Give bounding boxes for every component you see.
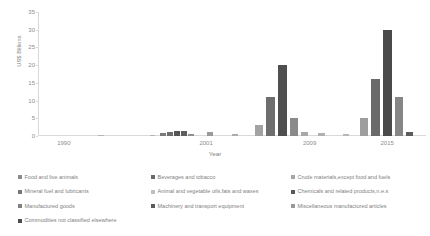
y-tick-mark-6 [36, 30, 38, 31]
bar[interactable] [406, 132, 413, 136]
y-axis-line [38, 12, 39, 136]
y-tick-mark-0 [36, 136, 38, 137]
legend-label: Beverages and tobacco [158, 175, 216, 181]
y-tick-label-2: 10 [28, 98, 35, 104]
bar[interactable] [232, 134, 238, 136]
legend-row: Manufactured goodsMachinery and transpor… [18, 199, 423, 214]
legend-swatch-icon [151, 204, 155, 208]
bar[interactable] [266, 97, 275, 136]
bar[interactable] [207, 132, 213, 136]
y-tick-mark-3 [36, 83, 38, 84]
bar[interactable] [278, 65, 287, 136]
legend-swatch-icon [291, 204, 295, 208]
legend-row: Food and live animalsBeverages and tobac… [18, 170, 423, 185]
legend-label: Commodities not classified elsewhere [25, 218, 117, 224]
legend-item[interactable]: Commodities not classified elsewhere [18, 218, 151, 224]
y-tick-label-4: 20 [28, 62, 35, 68]
bar[interactable] [318, 133, 325, 136]
legend-swatch-icon [18, 219, 22, 223]
legend-swatch-icon [151, 190, 155, 194]
y-tick-label-6: 30 [28, 27, 35, 33]
bar[interactable] [98, 135, 104, 136]
x-tick-label-0: 1990 [57, 140, 70, 146]
legend-swatch-icon [18, 190, 22, 194]
bar[interactable] [395, 97, 403, 136]
legend-item[interactable]: Food and live animals [18, 175, 151, 181]
bar[interactable] [174, 131, 180, 136]
y-tick-label-0: 0 [32, 133, 35, 139]
legend-item[interactable]: Miscellaneous manufactured articles [291, 204, 423, 210]
legend-label: Manufactured goods [25, 204, 75, 210]
bar[interactable] [160, 133, 166, 136]
bar[interactable] [181, 131, 187, 136]
legend-item[interactable]: Crude materials,except food and fuels [291, 175, 423, 181]
y-tick-label-7: 35 [28, 9, 35, 15]
x-tick-label-3: 2015 [381, 140, 394, 146]
y-tick-mark-4 [36, 65, 38, 66]
x-axis-title: Year [0, 150, 430, 157]
legend-item[interactable]: Mineral fuel and lubricants [18, 189, 151, 195]
bar[interactable] [383, 30, 392, 136]
bar[interactable] [360, 118, 368, 136]
bar-chart: US$ Billions 05101520253035 Year Food an… [0, 0, 430, 236]
legend-label: Mineral fuel and lubricants [25, 189, 89, 195]
legend-item[interactable]: Chemicals and related products,n.e.s [291, 189, 423, 195]
legend-label: Animal and vegetable oils,fats and waxes [158, 189, 259, 195]
bar[interactable] [371, 79, 380, 136]
bar[interactable] [343, 134, 349, 136]
legend-swatch-icon [18, 204, 22, 208]
legend-item[interactable]: Animal and vegetable oils,fats and waxes [151, 189, 291, 195]
legend-row: Commodities not classified elsewhere [18, 214, 423, 229]
y-tick-mark-7 [36, 12, 38, 13]
legend-swatch-icon [18, 175, 22, 179]
x-tick-label-2: 2009 [303, 140, 316, 146]
legend-item[interactable]: Beverages and tobacco [151, 175, 291, 181]
bar[interactable] [150, 135, 155, 136]
legend-label: Food and live animals [25, 175, 79, 181]
bar[interactable] [301, 132, 308, 136]
legend-item[interactable]: Manufactured goods [18, 204, 151, 210]
legend-label: Crude materials,except food and fuels [298, 175, 391, 181]
bar[interactable] [167, 132, 173, 136]
y-tick-label-1: 5 [32, 115, 35, 121]
legend-label: Machinery and transport equipment [158, 204, 245, 210]
legend-row: Mineral fuel and lubricantsAnimal and ve… [18, 185, 423, 200]
y-tick-label-3: 15 [28, 80, 35, 86]
y-axis-title: US$ Billions [16, 16, 22, 86]
legend-swatch-icon [291, 190, 295, 194]
bar[interactable] [255, 125, 263, 136]
legend-label: Miscellaneous manufactured articles [298, 204, 387, 210]
bar[interactable] [188, 134, 194, 136]
legend-swatch-icon [151, 175, 155, 179]
y-tick-mark-1 [36, 118, 38, 119]
bar[interactable] [290, 118, 298, 136]
y-tick-mark-2 [36, 101, 38, 102]
plot-area: 05101520253035 [38, 12, 426, 136]
legend-label: Chemicals and related products,n.e.s [298, 189, 389, 195]
legend-item[interactable]: Machinery and transport equipment [151, 204, 291, 210]
y-tick-mark-5 [36, 47, 38, 48]
y-tick-label-5: 25 [28, 44, 35, 50]
chart-legend: Food and live animalsBeverages and tobac… [18, 170, 423, 228]
x-tick-label-1: 2001 [199, 140, 212, 146]
legend-swatch-icon [291, 175, 295, 179]
